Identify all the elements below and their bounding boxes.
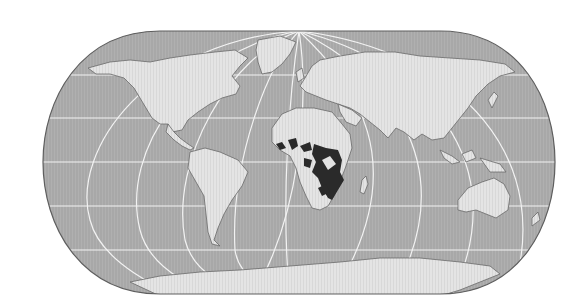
world-map-svg (0, 0, 581, 307)
world-map (0, 0, 581, 307)
